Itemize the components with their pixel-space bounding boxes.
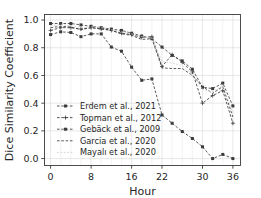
data-point-marker — [69, 31, 72, 34]
data-point-marker — [69, 22, 72, 25]
data-point-marker — [59, 30, 62, 33]
legend-label: Gebäck et al., 2009 — [80, 124, 160, 134]
data-point-marker — [221, 153, 224, 156]
axis-ticks — [41, 20, 233, 169]
data-point-marker — [160, 46, 163, 49]
legend-label: Garcia et al., 2020 — [80, 136, 156, 146]
data-point-marker — [191, 137, 194, 140]
y-tick-label: 0.8 — [23, 42, 38, 53]
chart-figure: 08162230360.00.20.40.60.81.0 HourDice Si… — [0, 0, 261, 198]
x-axis-title: Hour — [129, 185, 156, 198]
legend-label: Mayalı et al., 2020 — [80, 147, 156, 157]
legend-item-5[interactable]: Mayalı et al., 2020 — [57, 147, 156, 157]
data-point-marker — [64, 105, 67, 108]
y-tick-label: 0.2 — [23, 125, 38, 136]
data-point-marker — [140, 79, 143, 82]
data-point-marker — [221, 82, 224, 85]
data-point-marker — [231, 104, 234, 107]
data-point-marker — [171, 122, 174, 125]
data-point-marker — [120, 50, 123, 53]
data-point-marker — [100, 32, 103, 35]
data-point-marker — [49, 33, 52, 36]
legend-item-4[interactable]: Garcia et al., 2020 — [57, 136, 156, 146]
data-point-marker — [79, 23, 82, 26]
y-tick-label: 0.4 — [23, 98, 38, 109]
x-tick-label: 16 — [126, 171, 138, 182]
data-point-marker — [231, 121, 235, 125]
data-point-marker — [211, 87, 214, 90]
data-point-marker — [64, 116, 68, 120]
data-point-marker — [110, 46, 113, 49]
legend-label: Erdem et al., 2021 — [80, 101, 156, 111]
legend-label: Topman et al., 2012 — [79, 113, 161, 123]
data-point-marker — [90, 32, 93, 35]
legend-item-2[interactable]: Topman et al., 2012 — [57, 113, 161, 123]
legend-item-3[interactable]: Gebäck et al., 2009 — [57, 124, 160, 134]
data-point-marker — [231, 157, 234, 160]
data-point-marker — [130, 66, 133, 69]
y-tick-label: 1.0 — [23, 14, 38, 25]
data-point-marker — [79, 35, 82, 38]
data-point-marker — [49, 22, 52, 25]
x-tick-label: 36 — [227, 171, 239, 182]
data-point-marker — [49, 28, 53, 32]
data-point-marker — [150, 77, 153, 80]
x-tick-label: 30 — [196, 171, 208, 182]
x-tick-label: 8 — [88, 171, 94, 182]
chart-legend: Erdem et al., 2021Topman et al., 2012Geb… — [57, 101, 161, 157]
data-point-marker — [64, 128, 67, 131]
y-axis-title: Dice Similarity Coefficient — [3, 18, 16, 161]
y-tick-label: 0.6 — [23, 70, 38, 81]
y-tick-label: 0.0 — [23, 153, 38, 164]
x-tick-label: 22 — [156, 171, 168, 182]
legend-item-1[interactable]: Erdem et al., 2021 — [57, 101, 156, 111]
data-point-marker — [201, 145, 204, 148]
x-tick-label: 0 — [48, 171, 54, 182]
data-point-marker — [181, 130, 184, 133]
chart-canvas: 08162230360.00.20.40.60.81.0 HourDice Si… — [0, 0, 261, 198]
data-point-marker — [211, 157, 214, 160]
